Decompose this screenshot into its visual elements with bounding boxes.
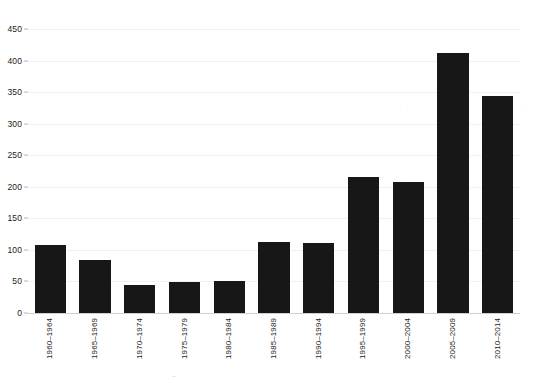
bar	[258, 242, 289, 313]
x-axis-tick-label: 1965–1969	[91, 318, 99, 359]
y-axis-tick-label: 300	[8, 119, 22, 128]
x-axis-tick-label: 1985–1989	[270, 318, 278, 359]
bar	[437, 53, 468, 313]
x-axis-tick-slot: 1995–1999	[341, 316, 386, 382]
bar	[214, 281, 245, 313]
x-axis-tick-label: 2010–2014	[494, 318, 502, 359]
x-axis-tick-label: 2000–2004	[404, 318, 412, 359]
y-axis-tick-label: 400	[8, 56, 22, 65]
x-axis-tick-label: 1960–1964	[46, 318, 54, 359]
bar	[393, 182, 424, 313]
y-axis-tick-label: 350	[8, 88, 22, 97]
x-axis-tick-label: 1975–1979	[181, 318, 189, 359]
x-axis-tick-slot: 1980–1984	[207, 316, 252, 382]
x-axis-tick-slot: 2005–2009	[431, 316, 476, 382]
x-axis-tick-label: 1980–1984	[225, 318, 233, 359]
bar-series	[28, 29, 520, 313]
y-axis-tick-label: 150	[8, 214, 22, 223]
x-axis-tick-slot: 1975–1979	[162, 316, 207, 382]
x-axis-tick-slot: 1985–1989	[252, 316, 297, 382]
y-axis-tick-label: 450	[8, 25, 22, 34]
bar	[124, 285, 155, 313]
bar	[169, 282, 200, 313]
y-axis-tick-label: 250	[8, 151, 22, 160]
x-axis-tick-label: 1970–1974	[136, 318, 144, 359]
x-axis-tick-slot: 1965–1969	[73, 316, 118, 382]
y-axis-tick-label: 0	[17, 309, 22, 318]
x-axis-tick-label: 1990–1994	[315, 318, 323, 359]
x-axis-tick-label: 2005–2009	[449, 318, 457, 359]
y-axis-tick-label: 100	[8, 246, 22, 255]
x-axis-tick-label: 1995–1999	[359, 318, 367, 359]
y-axis-tick-label: 50	[12, 277, 22, 286]
y-axis-tick-label: 200	[8, 183, 22, 192]
axis-baseline	[28, 313, 520, 314]
x-axis-tick-slot: 1990–1994	[296, 316, 341, 382]
plot-area	[28, 29, 520, 313]
bar	[482, 96, 513, 313]
x-axis-tick-slot: 2010–2014	[475, 316, 520, 382]
bar	[79, 260, 110, 313]
bar	[303, 243, 334, 313]
x-axis-tick-slot: 1960–1964	[28, 316, 73, 382]
y-axis: 050100150200250300350400450	[0, 29, 28, 313]
x-axis-tick-slot: 1970–1974	[117, 316, 162, 382]
x-axis-tick-slot: 2000–2004	[386, 316, 431, 382]
x-axis: 1960–19641965–19691970–19741975–19791980…	[28, 316, 520, 382]
bar-chart: 050100150200250300350400450 1960–1964196…	[0, 0, 533, 383]
bar	[348, 177, 379, 313]
bar	[35, 245, 66, 313]
